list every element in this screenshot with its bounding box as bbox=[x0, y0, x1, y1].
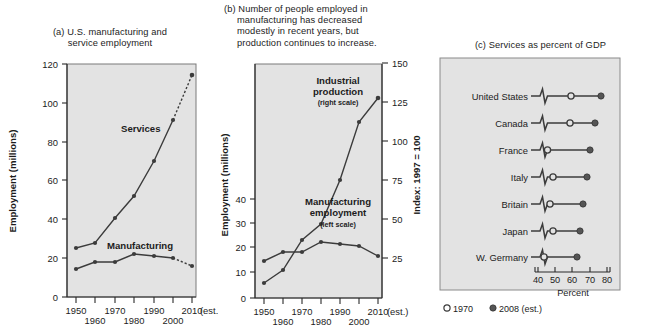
panel-a-xtick-1970: 1970 bbox=[105, 305, 126, 316]
panel-b-title-line2: manufacturing has decreased bbox=[224, 15, 428, 26]
panel-b-ylabel-right: Index: 1997 = 100 bbox=[411, 135, 422, 214]
panel-c-title: (c) Services as percent of GDP bbox=[438, 40, 643, 51]
panel-c-label-canada: Canada bbox=[495, 118, 529, 129]
panel-c: (c) Services as percent of GDP United St… bbox=[430, 0, 648, 329]
marker-1970-japan bbox=[550, 228, 556, 234]
panel-b-title-line3: modestly in recent years, but bbox=[224, 26, 428, 37]
marker-2008-w-germany bbox=[574, 254, 580, 260]
marker-1970-united-states bbox=[568, 93, 574, 99]
panel-b-title-line1: (b) Number of people employed in bbox=[224, 4, 428, 15]
panel-c-xtick-80: 80 bbox=[602, 275, 612, 285]
panel-a-xtick-1950: 1950 bbox=[66, 305, 87, 316]
panel-a-x-ticks: 1950 1960 1970 1980 1990 2000 2010 (est.… bbox=[66, 297, 218, 326]
panel-a-title-line2: service employment bbox=[20, 38, 200, 49]
panel-b-xtick-1960: 1960 bbox=[273, 316, 294, 327]
panel-a-xtick-1980: 1980 bbox=[124, 315, 145, 326]
panel-a-label-services: Services bbox=[121, 123, 160, 134]
panel-b-ytick-left-0: 0 bbox=[241, 293, 246, 304]
panel-b-xtick-1970: 1970 bbox=[292, 306, 313, 317]
panel-a-ytick-40: 40 bbox=[48, 214, 58, 225]
panel-a-ytick-100: 100 bbox=[42, 98, 58, 109]
panel-b-label-industrial-1: Industrial bbox=[316, 75, 359, 86]
panel-b-title-line4: production continues to increase. bbox=[224, 38, 428, 49]
marker-2008-britain bbox=[580, 201, 586, 207]
panel-c-label-w-germany: W. Germany bbox=[476, 252, 528, 263]
legend-label-1970: 1970 bbox=[453, 304, 473, 314]
panel-b-ytick-left-40: 40 bbox=[236, 194, 246, 205]
panel-b: (b) Number of people employed in manufac… bbox=[218, 0, 430, 329]
panel-a-xnote: (est.) bbox=[200, 305, 218, 316]
marker-1970-canada bbox=[567, 120, 573, 126]
panel-a-xtick-2000: 2000 bbox=[163, 315, 184, 326]
panel-b-ytick-right-25: 25 bbox=[392, 253, 402, 264]
panel-b-label-mfg-2: employment bbox=[310, 207, 367, 218]
panel-a-ytick-60: 60 bbox=[48, 175, 58, 186]
panel-c-xtick-70: 70 bbox=[585, 275, 595, 285]
panel-c-label-france: France bbox=[499, 145, 528, 156]
marker-1970-britain bbox=[547, 201, 553, 207]
panel-b-ytick-left-20: 20 bbox=[236, 242, 246, 253]
panel-c-label-japan: Japan bbox=[502, 226, 528, 237]
marker-2008-france bbox=[587, 147, 593, 153]
panel-b-xtick-1950: 1950 bbox=[254, 306, 275, 317]
panel-b-xtick-2010: 2010 bbox=[368, 306, 389, 317]
panel-b-y-ticks-left: 0 10 20 30 40 bbox=[236, 194, 255, 304]
panel-a-y-ticks: 120 100 80 60 40 20 0 bbox=[42, 59, 67, 303]
marker-1970-france bbox=[544, 147, 550, 153]
panel-c-plot-area bbox=[440, 58, 620, 290]
panel-c-label-united-states: United States bbox=[472, 91, 529, 102]
panel-c-xlabel: Percent bbox=[557, 288, 589, 298]
panel-b-ylabel-left: Employment (millions) bbox=[219, 134, 230, 237]
panel-b-ytick-left-10: 10 bbox=[236, 267, 246, 278]
panel-a-ylabel: Employment (millions) bbox=[7, 130, 18, 233]
panel-b-ytick-right-100: 100 bbox=[392, 136, 408, 147]
panel-b-label-mfg-1: Manufacturing bbox=[305, 196, 371, 207]
legend-label-2008: 2008 (est.) bbox=[499, 304, 542, 314]
panel-b-label-industrial-2: production bbox=[313, 86, 363, 97]
panel-a-label-manufacturing: Manufacturing bbox=[107, 240, 173, 251]
panel-b-x-ticks: 1950 1960 1970 1980 1990 2000 2010 (est.… bbox=[254, 298, 409, 327]
panel-a-ytick-80: 80 bbox=[48, 137, 58, 148]
panel-c-legend: 1970 2008 (est.) bbox=[444, 304, 542, 314]
panel-b-xtick-2000: 2000 bbox=[349, 316, 370, 327]
panel-b-label-mfg-sub: (left scale) bbox=[320, 220, 356, 229]
panel-a-xtick-1960: 1960 bbox=[85, 315, 106, 326]
panel-b-xnote: (est.) bbox=[387, 306, 408, 317]
legend-filled-circle-icon bbox=[490, 305, 496, 311]
marker-2008-canada bbox=[592, 120, 598, 126]
panel-c-title-text: (c) Services as percent of GDP bbox=[438, 40, 643, 51]
panel-a-ytick-20: 20 bbox=[48, 253, 58, 264]
marker-1970-w-germany bbox=[541, 254, 547, 260]
marker-1970-italy bbox=[550, 174, 556, 180]
marker-2008-united-states bbox=[598, 93, 604, 99]
panel-a-ytick-0: 0 bbox=[53, 292, 58, 303]
legend-open-circle-icon bbox=[444, 305, 450, 311]
panel-c-xtick-60: 60 bbox=[567, 275, 577, 285]
panel-a-title-line1: (a) U.S. manufacturing and bbox=[20, 27, 200, 38]
marker-2008-italy bbox=[584, 174, 590, 180]
panel-b-ytick-right-75: 75 bbox=[392, 175, 402, 186]
panel-b-ytick-left-30: 30 bbox=[236, 218, 246, 229]
panel-b-xtick-1990: 1990 bbox=[330, 306, 351, 317]
panel-c-label-italy: Italy bbox=[511, 172, 529, 183]
panel-a: (a) U.S. manufacturing and service emplo… bbox=[0, 0, 218, 329]
panel-b-chart: 0 10 20 30 40 150 125 100 75 50 25 bbox=[218, 0, 430, 329]
panel-b-xtick-1980: 1980 bbox=[311, 316, 332, 327]
panel-b-ytick-right-150: 150 bbox=[392, 58, 408, 69]
panel-b-label-industrial-sub: (right scale) bbox=[318, 98, 359, 107]
panel-b-ytick-right-125: 125 bbox=[392, 97, 408, 108]
panel-b-title: (b) Number of people employed in manufac… bbox=[224, 4, 428, 49]
panel-c-label-britain: Britain bbox=[501, 199, 528, 210]
panel-c-xtick-40: 40 bbox=[533, 275, 543, 285]
panel-a-plot-area bbox=[67, 64, 196, 297]
panel-b-y-ticks-right: 150 125 100 75 50 25 bbox=[382, 58, 408, 264]
panel-a-title: (a) U.S. manufacturing and service emplo… bbox=[20, 27, 200, 49]
panel-b-ytick-right-50: 50 bbox=[392, 214, 402, 225]
panel-a-xtick-1990: 1990 bbox=[144, 305, 165, 316]
marker-2008-japan bbox=[577, 228, 583, 234]
panel-a-ytick-120: 120 bbox=[42, 59, 58, 70]
panel-c-xtick-50: 50 bbox=[550, 275, 560, 285]
